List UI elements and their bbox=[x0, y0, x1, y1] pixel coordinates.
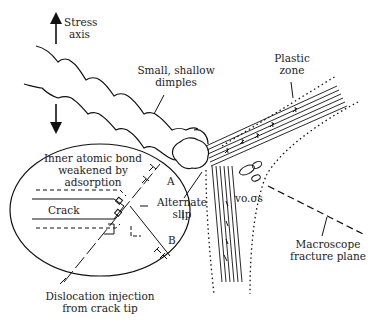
inner-bond-line2: weakened by bbox=[38, 164, 148, 176]
plastic-zone-line1: Plastic bbox=[270, 52, 314, 64]
stress-axis-line1: Stress bbox=[64, 16, 97, 28]
crack-label: Crack bbox=[48, 204, 80, 216]
stress-axis-arrows bbox=[50, 12, 62, 134]
point-a-label: A bbox=[167, 175, 175, 187]
stress-axis-line2: axis bbox=[64, 28, 97, 40]
dislocation-line1: Dislocation injection bbox=[40, 290, 160, 302]
plastic-zone-line2: zone bbox=[270, 64, 314, 76]
macroscope-line1: Macroscope bbox=[288, 238, 368, 250]
dislocation-line2: from crack tip bbox=[40, 302, 160, 314]
point-b-label: B bbox=[168, 234, 176, 246]
alternate-slip-label: Alternate slip bbox=[156, 196, 208, 220]
inner-atomic-bond-label: Inner atomic bond weakened by adsorption bbox=[38, 152, 148, 188]
dimples-line2: dimples bbox=[134, 76, 218, 88]
voids-label: vo.σs bbox=[235, 192, 263, 204]
alternate-slip-line1: Alternate bbox=[156, 196, 208, 208]
fracture-surface-lower bbox=[24, 84, 194, 160]
fracture-surface-upper bbox=[36, 46, 198, 130]
plastic-zone-label: Plastic zone bbox=[270, 52, 314, 76]
inner-bond-line1: Inner atomic bond bbox=[38, 152, 148, 164]
fracture-diagram: Stress axis Small, shallow dimples Plast… bbox=[0, 0, 373, 324]
crack-tip-bulb bbox=[173, 138, 209, 169]
dislocation-injection-label: Dislocation injection from crack tip bbox=[40, 290, 160, 314]
inner-bond-line3: adsorption bbox=[38, 176, 148, 188]
macroscope-fracture-plane-label: Macroscope fracture plane bbox=[288, 238, 368, 262]
dimples-label: Small, shallow dimples bbox=[134, 64, 218, 88]
dimples-leader bbox=[154, 95, 164, 114]
slip-band-upper bbox=[206, 86, 347, 166]
macroscope-fracture-plane bbox=[268, 186, 363, 234]
stress-axis-label: Stress axis bbox=[64, 16, 97, 40]
alternate-slip-line2: slip bbox=[156, 208, 208, 220]
macroscope-line2: fracture plane bbox=[288, 250, 368, 262]
voids bbox=[238, 160, 263, 182]
dimples-line1: Small, shallow bbox=[134, 64, 218, 76]
